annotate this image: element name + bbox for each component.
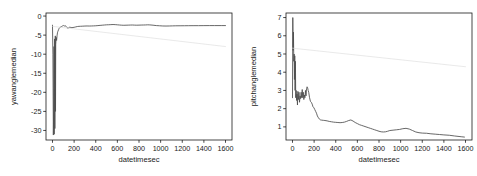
plot-frame — [46, 13, 232, 140]
x-tick-label: 1400 — [436, 144, 452, 153]
x-tick-label: 800 — [373, 144, 385, 153]
y-tick-label: -25 — [31, 107, 41, 116]
y-tick-label: 2 — [277, 104, 281, 113]
y-tick-label: -15 — [31, 69, 41, 78]
x-axis-label: datetimesec — [359, 155, 400, 164]
series-line-trend — [52, 26, 225, 46]
y-tick-label: 0 — [37, 12, 41, 21]
left-plot-svg: 020040060080010001200140016000-5-10-15-2… — [0, 0, 238, 176]
y-axis-label: pitchanglemedian — [249, 47, 258, 107]
series-line-yawanglemedian — [52, 25, 225, 136]
x-tick-label: 600 — [351, 144, 363, 153]
chart-panel-pitchanglemedian: 020040060080010001200140016001234567date… — [239, 0, 477, 176]
x-tick-label: 400 — [330, 144, 342, 153]
x-tick-label: 1600 — [458, 144, 474, 153]
x-tick-label: 0 — [50, 144, 54, 153]
y-tick-label: -20 — [31, 88, 41, 97]
chart-panel-yawanglemedian: 020040060080010001200140016000-5-10-15-2… — [0, 0, 238, 176]
x-tick-label: 1000 — [393, 144, 409, 153]
x-tick-label: 600 — [111, 144, 123, 153]
series-line-pitchanglemedian — [292, 18, 464, 138]
x-axis-label: datetimesec — [119, 155, 160, 164]
y-tick-label: 7 — [277, 13, 281, 22]
x-tick-label: 200 — [308, 144, 320, 153]
x-tick-label: 1200 — [174, 144, 190, 153]
x-tick-label: 1000 — [153, 144, 169, 153]
data-layer — [52, 25, 225, 136]
x-tick-label: 400 — [90, 144, 102, 153]
y-tick-label: -5 — [35, 31, 41, 40]
y-axis-label: yawanglemedian — [9, 48, 18, 105]
plot-frame — [286, 13, 472, 140]
right-plot-svg: 020040060080010001200140016001234567date… — [239, 0, 477, 176]
y-tick-label: 6 — [277, 31, 281, 40]
y-tick-label: 5 — [277, 50, 281, 59]
data-layer — [292, 18, 465, 138]
y-tick-label: 1 — [277, 122, 281, 131]
x-tick-label: 1600 — [218, 144, 234, 153]
x-tick-label: 1200 — [414, 144, 430, 153]
x-tick-label: 200 — [68, 144, 80, 153]
figure-container: 020040060080010001200140016000-5-10-15-2… — [0, 0, 477, 176]
x-tick-label: 0 — [290, 144, 294, 153]
x-tick-label: 800 — [133, 144, 145, 153]
y-tick-label: -10 — [31, 50, 41, 59]
y-tick-label: 4 — [277, 68, 281, 77]
x-tick-label: 1400 — [196, 144, 212, 153]
y-tick-label: 3 — [277, 86, 281, 95]
y-tick-label: -30 — [31, 126, 41, 135]
series-line-trend — [292, 48, 465, 67]
